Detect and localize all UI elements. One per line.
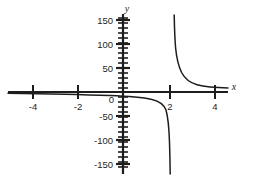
x-axis-label: x bbox=[231, 81, 237, 92]
coordinate-plot: -4 -2 2 4 0 150 100 50 -50 -100 -150 x y bbox=[0, 0, 254, 180]
y-axis-label: y bbox=[124, 3, 130, 14]
x-tick-label-minus4: -4 bbox=[29, 101, 37, 112]
y-tick-label-150: 150 bbox=[97, 15, 113, 26]
y-tick-label-minus150: -150 bbox=[94, 159, 113, 170]
axis-name-labels: x y bbox=[124, 3, 237, 92]
y-tick-label-minus50: -50 bbox=[99, 111, 113, 122]
y-tick-label-100: 100 bbox=[97, 39, 113, 50]
curve-right-branch bbox=[174, 15, 228, 88]
x-tick-label-minus2: -2 bbox=[74, 101, 82, 112]
x-tick-label-4: 4 bbox=[212, 101, 217, 112]
y-tick-label-minus100: -100 bbox=[94, 135, 113, 146]
graph-figure: -4 -2 2 4 0 150 100 50 -50 -100 -150 x y bbox=[0, 0, 254, 180]
y-tick-label-50: 50 bbox=[102, 63, 113, 74]
x-tick-label-2: 2 bbox=[167, 101, 172, 112]
